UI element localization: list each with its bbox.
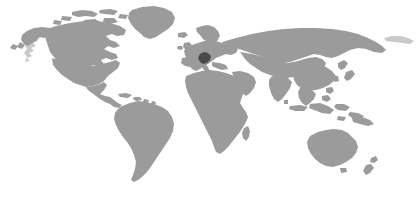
world-map-figure [0,0,416,199]
world-map-svg [0,0,416,199]
land-sri-lanka [284,100,288,104]
